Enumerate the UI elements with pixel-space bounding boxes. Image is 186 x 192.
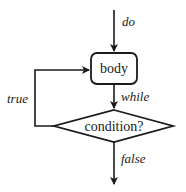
true-label: true [7,91,28,106]
false-label: false [121,151,146,166]
entry-label: do [122,14,136,29]
loop-back-arrow [35,70,89,126]
condition-node-label: condition? [84,119,143,134]
body-node: body [91,53,137,84]
while-label: while [121,89,149,104]
body-node-label: body [100,61,128,76]
condition-node: condition? [54,110,173,142]
flowchart-canvas: do body while condition? true false [0,0,186,192]
